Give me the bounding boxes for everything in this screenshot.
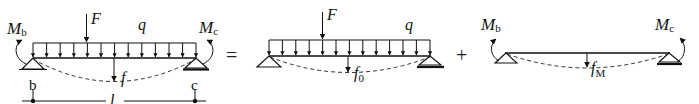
label-deflection: f bbox=[121, 69, 128, 87]
distributed-load-q bbox=[33, 43, 196, 57]
label-moment-c: Mc bbox=[654, 15, 674, 34]
deflected-shape bbox=[270, 57, 430, 73]
beam-superposition-diagram: Mb Mc F q f b c l = bbox=[0, 0, 699, 104]
moment-c-arrow-icon bbox=[203, 40, 213, 64]
panel-moments-only: Mb Mc fM bbox=[480, 15, 685, 79]
label-deflection-fM: fM bbox=[591, 59, 605, 79]
pin-support-left bbox=[495, 53, 517, 63]
roller-support-right bbox=[657, 53, 682, 64]
roller-support-c bbox=[183, 58, 209, 70]
label-moment-b: Mb bbox=[6, 19, 27, 38]
label-force: F bbox=[326, 6, 337, 23]
pin-support-left bbox=[257, 56, 281, 67]
label-moment-c: Mc bbox=[198, 18, 218, 37]
distributed-load-q bbox=[269, 40, 430, 55]
label-moment-b: Mb bbox=[480, 15, 501, 34]
moment-b-arrow-icon bbox=[16, 40, 26, 64]
roller-support-right bbox=[417, 56, 444, 67]
panel-loads-only: F q f0 bbox=[257, 6, 444, 84]
moment-c-arrow-icon bbox=[677, 38, 685, 62]
label-distributed-load: q bbox=[405, 16, 413, 34]
equals-sign: = bbox=[226, 44, 237, 66]
plus-sign: + bbox=[456, 44, 467, 66]
label-deflection-f0: f0 bbox=[354, 64, 364, 84]
moment-b-arrow-icon bbox=[491, 39, 499, 61]
label-distributed-load: q bbox=[138, 16, 146, 34]
label-force: F bbox=[90, 10, 101, 27]
label-span: l bbox=[110, 92, 115, 104]
panel-total: Mb Mc F q f b c l bbox=[6, 10, 218, 104]
